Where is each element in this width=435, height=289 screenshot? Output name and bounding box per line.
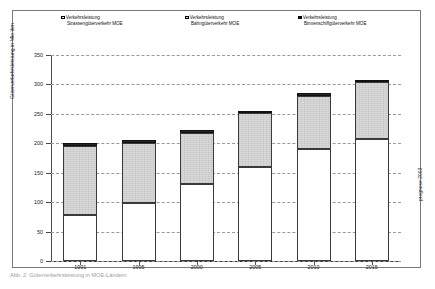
x-tick-mark	[372, 261, 373, 265]
legend-item-road: Verkehrsleistung Strassengüterverkehr MO…	[61, 15, 123, 27]
y-tick-label: 350	[13, 52, 43, 58]
y-tick-label: 300	[13, 81, 43, 87]
legend-item-rail: Verkehrsleistung Bahngüterverkehr MOE	[185, 15, 239, 27]
legend-label-road-line1: Verkehrsleistung	[66, 15, 100, 20]
bar-segment-Bahngüterverkehr[interactable]	[238, 113, 272, 167]
y-tick-label: 0	[13, 258, 43, 264]
bar-segment-Binnenschiffgüterverkehr[interactable]	[180, 130, 214, 132]
bar-segment-Bahngüterverkehr[interactable]	[180, 133, 214, 185]
legend-label-waterway-line1: Verkehrsleistung	[303, 15, 337, 20]
bar-column[interactable]	[355, 55, 389, 261]
y-tick-label: 150	[13, 170, 43, 176]
bar-segment-Bahngüterverkehr[interactable]	[63, 146, 97, 215]
x-tick-mark	[197, 261, 198, 265]
bar-segment-Binnenschiffgüterverkehr[interactable]	[63, 143, 97, 145]
y-tick-label: 50	[13, 229, 43, 235]
x-tick-mark	[255, 261, 256, 265]
x-tick-mark	[314, 261, 315, 265]
legend-swatch-waterway-icon	[298, 16, 302, 20]
chart-legend: Verkehrsleistung Strassengüterverkehr MO…	[13, 15, 420, 39]
bar-segment-Binnenschiffgüterverkehr[interactable]	[238, 111, 272, 113]
legend-label-waterway-line2: Binnenschiffgüterverkehr MOE	[304, 21, 366, 27]
bar-segment-Binnenschiffgüterverkehr[interactable]	[355, 80, 389, 82]
y-tick-label: 100	[13, 199, 43, 205]
bar-column[interactable]	[63, 55, 97, 261]
bar-segment-Strassengüterverkehr[interactable]	[297, 149, 331, 261]
bar-segment-Strassengüterverkehr[interactable]	[180, 184, 214, 261]
y-tick-label: 250	[13, 111, 43, 117]
legend-swatch-road-icon	[61, 16, 65, 20]
legend-label-rail-line2: Bahngüterverkehr MOE	[191, 21, 239, 27]
plot-area	[51, 55, 401, 261]
y-tick-label: 200	[13, 140, 43, 146]
legend-label-road-line2: Strassengüterverkehr MOE	[67, 21, 123, 27]
x-tick-mark	[139, 261, 140, 265]
figure-caption: Abb. 2: Güterverkehrsleistung in MOE-Län…	[10, 272, 127, 278]
figure-frame: Verkehrsleistung Strassengüterverkehr MO…	[12, 10, 421, 268]
bar-segment-Binnenschiffgüterverkehr[interactable]	[297, 93, 331, 95]
bar-column[interactable]	[238, 55, 272, 261]
legend-item-waterway: Verkehrsleistung Binnenschiffgüterverkeh…	[298, 15, 366, 27]
grid-line	[51, 261, 401, 262]
bar-segment-Bahngüterverkehr[interactable]	[355, 82, 389, 139]
bar-segment-Strassengüterverkehr[interactable]	[355, 139, 389, 261]
bar-segment-Strassengüterverkehr[interactable]	[63, 215, 97, 261]
bar-segment-Bahngüterverkehr[interactable]	[297, 96, 331, 150]
forecast-note: prognose 2003	[417, 168, 423, 201]
bar-segment-Bahngüterverkehr[interactable]	[122, 143, 156, 204]
bar-segment-Binnenschiffgüterverkehr[interactable]	[122, 140, 156, 142]
bar-column[interactable]	[180, 55, 214, 261]
bar-segment-Strassengüterverkehr[interactable]	[122, 203, 156, 261]
y-axis-title: Güterverkehrsleistung in Mio tkm	[9, 23, 15, 99]
x-tick-mark	[80, 261, 81, 265]
bar-segment-Strassengüterverkehr[interactable]	[238, 167, 272, 261]
bar-column[interactable]	[122, 55, 156, 261]
legend-label-rail-line1: Verkehrsleistung	[190, 15, 224, 20]
bar-column[interactable]	[297, 55, 331, 261]
legend-swatch-rail-icon	[185, 16, 189, 20]
